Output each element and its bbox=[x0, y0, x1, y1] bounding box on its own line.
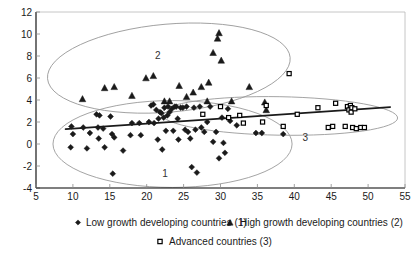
y-axis: -4-2024681012 bbox=[21, 7, 40, 194]
point-triangle bbox=[204, 98, 211, 104]
x-tick-label: 50 bbox=[363, 191, 375, 202]
point-triangle bbox=[129, 92, 136, 98]
point-square bbox=[343, 124, 347, 128]
legend-marker-diamond bbox=[75, 220, 80, 225]
point-diamond bbox=[138, 132, 144, 138]
point-diamond bbox=[163, 128, 169, 134]
point-diamond bbox=[213, 129, 219, 135]
point-square bbox=[287, 72, 291, 76]
y-tick-label: -4 bbox=[23, 183, 32, 194]
point-diamond bbox=[70, 131, 76, 137]
point-diamond bbox=[194, 170, 200, 176]
point-square bbox=[331, 124, 335, 128]
point-diamond bbox=[110, 171, 116, 177]
point-diamond bbox=[221, 140, 227, 146]
legend-label: High growth developing countries (2) bbox=[240, 217, 403, 228]
x-tick-label: 20 bbox=[141, 191, 153, 202]
point-triangle bbox=[176, 82, 183, 88]
point-triangle bbox=[79, 96, 86, 102]
point-triangle bbox=[198, 84, 205, 90]
point-diamond bbox=[189, 164, 195, 170]
point-triangle bbox=[210, 49, 217, 55]
point-triangle bbox=[205, 79, 212, 85]
y-tick-group: -4-2024681012 bbox=[21, 7, 40, 194]
scatter-chart: 123 -4-2024681012 510152025303540455055 … bbox=[0, 0, 418, 257]
point-diamond bbox=[176, 137, 182, 143]
point-square bbox=[334, 101, 338, 105]
point-diamond bbox=[96, 136, 102, 142]
point-diamond bbox=[87, 130, 93, 136]
y-tick-label: 6 bbox=[26, 73, 32, 84]
point-square bbox=[261, 120, 265, 124]
x-tick-label: 25 bbox=[178, 191, 190, 202]
point-diamond bbox=[187, 136, 193, 142]
x-tick-label: 30 bbox=[215, 191, 227, 202]
x-axis: 510152025303540455055 bbox=[33, 184, 411, 202]
point-diamond bbox=[156, 116, 162, 122]
point-square bbox=[362, 125, 366, 129]
x-tick-group: 510152025303540455055 bbox=[33, 184, 411, 202]
point-square bbox=[353, 107, 357, 111]
cluster-label-3: 3 bbox=[303, 132, 309, 143]
point-square bbox=[316, 106, 320, 110]
y-tick-label: 10 bbox=[21, 29, 33, 40]
point-triangle bbox=[190, 89, 197, 95]
point-diamond bbox=[210, 139, 216, 145]
point-diamond bbox=[84, 146, 90, 152]
point-diamond bbox=[234, 122, 240, 128]
y-tick-label: -2 bbox=[23, 161, 32, 172]
point-diamond bbox=[120, 148, 126, 154]
point-triangle bbox=[150, 73, 157, 79]
point-diamond bbox=[128, 132, 134, 138]
point-diamond bbox=[170, 128, 176, 134]
cluster-label-2: 2 bbox=[155, 50, 161, 61]
point-square bbox=[238, 113, 242, 117]
y-tick-label: 12 bbox=[21, 7, 33, 18]
point-diamond bbox=[68, 144, 74, 150]
point-square bbox=[295, 112, 299, 116]
x-tick-label: 15 bbox=[104, 191, 116, 202]
point-triangle bbox=[216, 30, 223, 36]
point-triangle bbox=[246, 84, 253, 90]
point-diamond bbox=[222, 150, 228, 156]
point-diamond bbox=[80, 125, 86, 131]
x-tick-label: 5 bbox=[33, 191, 39, 202]
point-square bbox=[218, 105, 222, 109]
point-square bbox=[281, 124, 285, 128]
x-tick-label: 45 bbox=[326, 191, 338, 202]
point-diamond bbox=[219, 115, 225, 121]
point-diamond bbox=[159, 147, 165, 153]
x-tick-label: 35 bbox=[252, 191, 264, 202]
point-triangle bbox=[183, 93, 190, 99]
cluster-label-1: 1 bbox=[162, 168, 168, 179]
point-diamond bbox=[95, 125, 101, 131]
point-diamond bbox=[225, 106, 231, 112]
point-diamond bbox=[136, 120, 142, 126]
point-triangle bbox=[111, 84, 118, 90]
x-tick-label: 40 bbox=[289, 191, 301, 202]
point-diamond bbox=[280, 131, 286, 137]
y-tick-label: 2 bbox=[26, 117, 32, 128]
point-diamond bbox=[151, 120, 157, 126]
x-tick-label: 55 bbox=[399, 191, 411, 202]
chart-canvas: 123 -4-2024681012 510152025303540455055 … bbox=[0, 0, 418, 257]
point-diamond bbox=[102, 144, 108, 150]
point-square bbox=[227, 116, 231, 120]
point-triangle bbox=[214, 35, 221, 41]
point-triangle bbox=[218, 57, 225, 63]
y-tick-label: 0 bbox=[26, 139, 32, 150]
point-triangle bbox=[143, 75, 150, 81]
point-diamond bbox=[155, 137, 161, 143]
point-square bbox=[241, 121, 245, 125]
cluster-ellipse-1 bbox=[53, 101, 292, 188]
x-tick-label: 10 bbox=[67, 191, 79, 202]
point-diamond bbox=[207, 104, 213, 110]
legend-marker-square bbox=[158, 239, 162, 243]
y-tick-label: 4 bbox=[26, 95, 32, 106]
chart-legend: Low growth developing countries (1)High … bbox=[75, 217, 402, 247]
plot-frame bbox=[36, 12, 405, 188]
point-diamond bbox=[108, 114, 114, 120]
legend-label: Advanced countries (3) bbox=[169, 236, 272, 247]
point-triangle bbox=[101, 85, 108, 91]
point-square bbox=[201, 112, 205, 116]
